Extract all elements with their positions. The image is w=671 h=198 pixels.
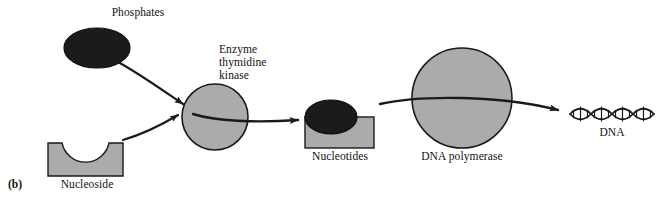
label-nucleoside: Nucleoside xyxy=(61,178,114,192)
diagram-canvas xyxy=(0,0,671,198)
figure-panel-b: Phosphates Enzyme thymidine kinase Nucle… xyxy=(0,0,671,198)
label-enzyme-line1: Enzyme xyxy=(219,43,257,57)
label-dna: DNA xyxy=(599,126,624,140)
label-enzyme-line2: thymidine xyxy=(219,56,267,70)
phosphates-to-kinase-arrow xyxy=(118,62,183,104)
thymidine-kinase-circle xyxy=(182,84,248,150)
panel-letter-b: (b) xyxy=(8,178,22,190)
nucleoside-block xyxy=(48,143,123,176)
label-dna-polymerase: DNA polymerase xyxy=(421,150,503,164)
nucleotides-ellipse xyxy=(305,100,357,134)
label-enzyme-line3: kinase xyxy=(219,69,249,83)
nucleoside-to-kinase-arrow xyxy=(123,115,178,140)
dna-double-helix xyxy=(570,107,654,121)
label-nucleotides: Nucleotides xyxy=(312,150,368,164)
label-phosphates: Phosphates xyxy=(112,6,165,20)
